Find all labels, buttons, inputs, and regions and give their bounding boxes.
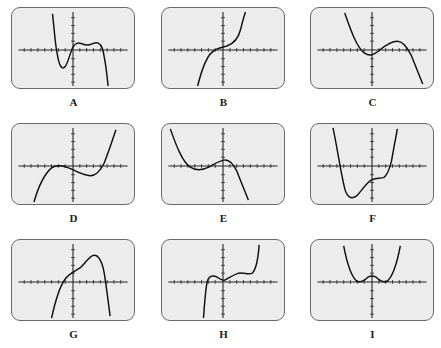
panel-label-f: F <box>299 212 441 224</box>
graph-b <box>162 8 284 88</box>
panel-f: F <box>299 116 441 232</box>
panel-label-i: I <box>299 328 441 340</box>
panel-i: I <box>299 232 441 348</box>
panel-label-h: H <box>150 328 297 340</box>
calculator-screen-c <box>310 7 434 89</box>
panel-b: B <box>150 0 297 116</box>
panel-label-b: B <box>150 96 297 108</box>
graph-a <box>12 8 134 88</box>
panel-g: G <box>0 232 147 348</box>
panel-label-a: A <box>0 96 147 108</box>
calculator-screen-i <box>310 239 434 321</box>
calculator-screen-h <box>161 239 285 321</box>
graph-e <box>162 124 284 204</box>
graph-f <box>311 124 433 204</box>
panel-label-e: E <box>150 212 297 224</box>
panel-a: A <box>0 0 147 116</box>
graph-h <box>162 240 284 320</box>
calculator-screen-b <box>161 7 285 89</box>
panel-label-d: D <box>0 212 147 224</box>
panel-h: H <box>150 232 297 348</box>
calculator-screen-d <box>11 123 135 205</box>
calculator-screen-f <box>310 123 434 205</box>
graph-i <box>311 240 433 320</box>
panel-label-c: C <box>299 96 441 108</box>
graph-d <box>12 124 134 204</box>
graph-c <box>311 8 433 88</box>
calculator-screen-e <box>161 123 285 205</box>
calculator-screen-a <box>11 7 135 89</box>
panel-d: D <box>0 116 147 232</box>
panel-c: C <box>299 0 441 116</box>
panel-label-g: G <box>0 328 147 340</box>
calculator-screen-g <box>11 239 135 321</box>
graph-g <box>12 240 134 320</box>
panel-e: E <box>150 116 297 232</box>
